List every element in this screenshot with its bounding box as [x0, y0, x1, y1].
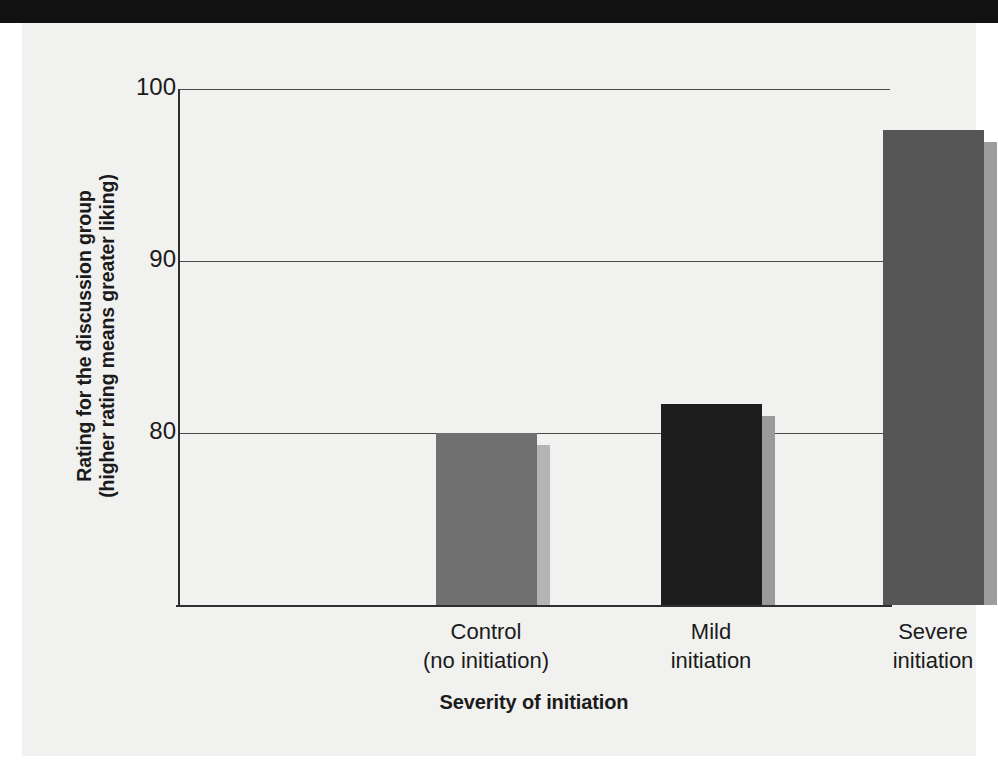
bar-severe-body [883, 130, 984, 605]
bar-control-shadow [537, 445, 550, 605]
bar-severe[interactable] [883, 130, 984, 605]
bar-mild-body [661, 404, 762, 605]
y-axis-title-line-1: Rating for the discussion group [73, 146, 96, 526]
page-header-band [0, 0, 998, 23]
x-axis-title: Severity of initiation [178, 691, 890, 714]
bar-mild[interactable] [661, 404, 762, 605]
gridline-100 [178, 89, 890, 90]
gridline-90 [178, 261, 890, 262]
bar-chart: Rating for the discussion group (higher … [22, 23, 976, 756]
y-tick-label-100: 100 [56, 73, 176, 101]
x-axis-line [176, 605, 892, 607]
bar-control-body [436, 433, 537, 605]
bar-severe-shadow [984, 142, 997, 605]
y-tick-label-80: 80 [56, 417, 176, 445]
y-tick-label-90: 90 [56, 245, 176, 273]
x-category-label-severe: Severe initiation [783, 617, 998, 675]
x-category-label-severe-line-2: initiation [783, 646, 998, 675]
figure-panel: Rating for the discussion group (higher … [22, 23, 976, 756]
figure-page: Rating for the discussion group (higher … [0, 0, 998, 779]
bar-control[interactable] [436, 433, 537, 605]
y-axis-line [178, 89, 180, 605]
y-axis-title: Rating for the discussion group (higher … [73, 146, 119, 526]
plot-area: 100 90 80 [178, 89, 890, 605]
x-category-label-severe-line-1: Severe [783, 617, 998, 646]
y-axis-title-line-2: (higher rating means greater liking) [96, 146, 119, 526]
bar-mild-shadow [762, 416, 775, 605]
